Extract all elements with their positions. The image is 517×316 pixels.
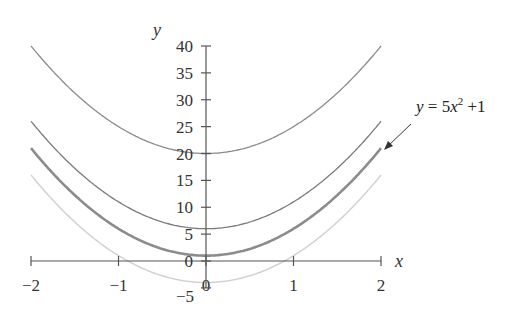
annotation-arrow <box>388 124 411 146</box>
x-axis-label: x <box>394 251 403 271</box>
chart-canvas: −2−1012x0510152025303540−5yy = 5x2 +1 <box>0 0 517 316</box>
x-tick-label: 1 <box>289 276 298 295</box>
x-tick-label: 2 <box>377 276 386 295</box>
y-tick-label: 40 <box>176 37 193 56</box>
x-tick-label: −1 <box>109 276 127 295</box>
y-tick-label: 15 <box>176 171 193 190</box>
x-tick-label: −2 <box>22 276 40 295</box>
y-tick-label: −5 <box>176 287 194 306</box>
y-tick-label: 0 <box>185 252 194 271</box>
y-tick-label: 5 <box>185 225 194 244</box>
y-tick-label: 30 <box>176 91 193 110</box>
y-tick-label: 20 <box>176 145 193 164</box>
annotation-label: y = 5x2 +1 <box>414 95 486 116</box>
y-axis-label: y <box>151 20 161 40</box>
y-tick-label: 25 <box>176 118 193 137</box>
y-tick-label: 35 <box>176 64 193 83</box>
y-tick-label: 10 <box>176 198 193 217</box>
